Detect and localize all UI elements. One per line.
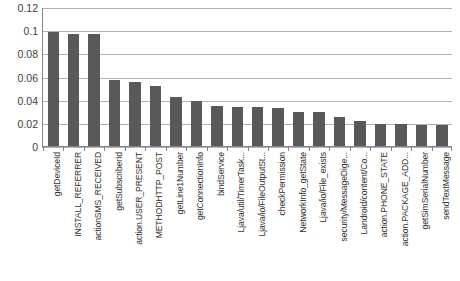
bar-slot	[268, 8, 288, 146]
x-axis-label: action.PHONE_STATE	[380, 152, 389, 237]
bar-slot	[370, 8, 390, 146]
x-axis-label-slot: security/MessageDige...	[329, 152, 349, 281]
x-axis-tick	[125, 147, 145, 151]
bar	[354, 121, 365, 146]
x-axis-label-slot: checkPermission	[268, 152, 288, 281]
x-axis-tick	[288, 147, 308, 151]
bar	[395, 124, 406, 146]
x-axis-tick	[63, 147, 83, 151]
x-axis-tick	[309, 147, 329, 151]
bar-slot	[166, 8, 186, 146]
x-axis-label-slot: INSTALL_REFERRER	[63, 152, 83, 281]
x-axis-label-slot: NetworkInfo_getState	[288, 152, 308, 281]
tick-mark	[125, 147, 126, 151]
x-axis-tick	[145, 147, 165, 151]
x-axis-label: actionSMS_RECEIVED	[94, 152, 103, 240]
bar	[313, 112, 324, 147]
x-axis-tick	[329, 147, 349, 151]
bar	[150, 86, 161, 146]
bar-slot	[391, 8, 411, 146]
x-axis-label-slot: getLine1Number	[166, 152, 186, 281]
x-axis-ticks	[43, 147, 452, 151]
x-axis-tick	[84, 147, 104, 151]
tick-mark	[145, 147, 146, 151]
x-axis-label-slot: sendTextMessage	[432, 152, 452, 281]
y-axis: 0.120.10.080.060.040.020	[0, 8, 38, 147]
bar-slot	[145, 8, 165, 146]
bar-slot	[350, 8, 370, 146]
bar-chart: 0.120.10.080.060.040.020 getDeviceIdINST…	[0, 0, 460, 281]
tick-mark	[370, 147, 371, 151]
x-axis-label: INSTALL_REFERRER	[74, 152, 83, 237]
x-axis-tick	[207, 147, 227, 151]
x-axis-label: Ljava/util/TimerTask...	[237, 152, 246, 232]
x-axis-tick	[248, 147, 268, 151]
bar-slot	[207, 8, 227, 146]
bar-slot	[125, 8, 145, 146]
x-axis-tick	[391, 147, 411, 151]
x-axis-label: getSimSerialNumber	[421, 152, 430, 229]
y-axis-tick-label: 0	[0, 142, 38, 152]
x-axis-label: security/MessageDige...	[340, 152, 349, 241]
x-axis-label-slot: Ljava/util/TimerTask...	[227, 152, 247, 281]
tick-mark	[43, 147, 44, 151]
bar	[211, 106, 222, 146]
x-axis-label-slot: actionSMS_RECEIVED	[84, 152, 104, 281]
x-axis-labels: getDeviceIdINSTALL_REFERRERactionSMS_REC…	[43, 152, 452, 281]
x-axis-tick	[432, 147, 452, 151]
x-axis-tick	[104, 147, 124, 151]
x-axis-label-slot: action.USER_PRESENT	[125, 152, 145, 281]
x-axis-label-slot: bindService	[207, 152, 227, 281]
tick-mark	[288, 147, 289, 151]
bar-slot	[63, 8, 83, 146]
x-axis-label-slot: getDeviceId	[43, 152, 63, 281]
x-axis-tick	[43, 147, 63, 151]
plot-area	[42, 8, 452, 147]
bar-slot	[84, 8, 104, 146]
tick-mark	[309, 147, 310, 151]
tick-mark	[166, 147, 167, 151]
x-axis-label: Ljava/io/File_exists	[319, 152, 328, 223]
tick-mark	[411, 147, 412, 151]
bar	[109, 80, 120, 146]
tick-mark	[329, 147, 330, 151]
tick-mark	[248, 147, 249, 151]
bar-slot	[432, 8, 452, 146]
bar-series	[43, 8, 452, 146]
x-axis-label: sendTextMessage	[442, 152, 451, 220]
bar	[68, 34, 79, 146]
tick-mark	[104, 147, 105, 151]
x-axis-tick	[350, 147, 370, 151]
x-axis-label: action.USER_PRESENT	[135, 152, 144, 245]
x-axis-label-slot: Landroid/content/Co...	[350, 152, 370, 281]
x-axis-label-slot: getSubscriberId	[104, 152, 124, 281]
x-axis-label-slot: METHODHTTP_POST	[145, 152, 165, 281]
bar-slot	[288, 8, 308, 146]
bar-slot	[411, 8, 431, 146]
bar-slot	[227, 8, 247, 146]
bar	[252, 107, 263, 146]
y-axis-tick-label: 0.1	[0, 26, 38, 36]
tick-mark	[432, 147, 433, 151]
y-axis-tick-label: 0.04	[0, 96, 38, 106]
tick-mark	[207, 147, 208, 151]
y-axis-tick-label: 0.02	[0, 119, 38, 129]
bar	[191, 101, 202, 146]
tick-mark	[391, 147, 392, 151]
x-axis-label: METHODHTTP_POST	[155, 152, 164, 238]
x-axis-label-slot: getSimSerialNumber	[411, 152, 431, 281]
bar	[88, 34, 99, 146]
x-axis-label: Ljava/io/FileOutputSt...	[258, 152, 267, 237]
x-axis-tick	[370, 147, 390, 151]
bar	[375, 124, 386, 146]
x-axis-label-slot: Ljava/io/File_exists	[309, 152, 329, 281]
x-axis-label: action.PACKAGE_ADD...	[401, 152, 410, 246]
x-axis-label: getSubscriberId	[115, 152, 124, 211]
y-axis-tick-label: 0.08	[0, 49, 38, 59]
x-axis-tick	[166, 147, 186, 151]
bar	[129, 82, 140, 146]
bar	[436, 125, 447, 146]
bar	[48, 32, 59, 146]
x-axis-label: Landroid/content/Co...	[360, 152, 369, 234]
bar	[232, 107, 243, 146]
